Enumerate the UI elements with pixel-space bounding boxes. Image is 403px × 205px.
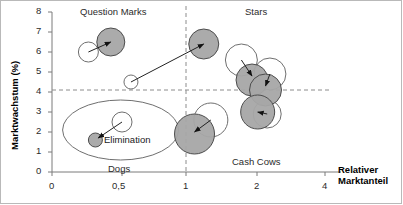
quadrant-label-stars: Stars	[245, 6, 267, 17]
bcg-matrix-chart: Question Marks Stars Dogs Cash Cows Elim…	[0, 0, 403, 205]
x-tick-label: 0,5	[112, 180, 125, 191]
x-axis-title-line1: Relativer	[338, 164, 388, 175]
movement-arrow-long	[131, 44, 204, 82]
quadrant-label-dogs: Dogs	[108, 163, 130, 174]
y-tick-label: 0	[36, 165, 41, 176]
bubble-current-dog-1	[88, 133, 102, 147]
y-tick-label: 1	[36, 145, 41, 156]
quadrant-label-cash-cows: Cash Cows	[232, 156, 281, 167]
x-axis-title-line2: Marktanteil	[338, 175, 388, 186]
y-tick-label: 3	[36, 105, 41, 116]
y-tick-label: 7	[36, 25, 41, 36]
y-tick-label: 2	[36, 125, 41, 136]
x-tick-label: 2	[254, 180, 259, 191]
x-tick-label: 0	[49, 180, 54, 191]
x-tick-label: 1	[183, 180, 188, 191]
y-tick-label: 6	[36, 45, 41, 56]
quadrant-label-question-marks: Question Marks	[80, 6, 147, 17]
bubble-current-cc-1	[175, 114, 215, 154]
y-tick-label: 5	[36, 65, 41, 76]
x-tick-label: 4	[322, 180, 327, 191]
y-axis-title: Marktwachstum (%)	[9, 61, 20, 150]
annotation-elimination: Elimination	[104, 134, 150, 145]
y-tick-label: 8	[36, 5, 41, 16]
y-tick-label: 4	[36, 85, 41, 96]
